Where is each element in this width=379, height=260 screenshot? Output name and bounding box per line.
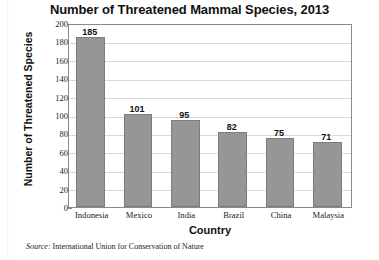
bar-indonesia[interactable] <box>76 37 104 207</box>
x-tick-label: Indonesia <box>68 210 115 220</box>
bar-value-label: 95 <box>170 110 198 120</box>
gridline <box>69 61 351 62</box>
bar-brazil[interactable] <box>218 132 246 207</box>
y-axis-tick-labels: 200180160140120100806040200 <box>38 24 68 208</box>
x-axis-title: Country <box>68 224 352 236</box>
gridline <box>69 98 351 99</box>
x-tick-label: Brazil <box>210 210 257 220</box>
bar-value-label: 75 <box>265 128 293 138</box>
y-tick-label: 160 <box>42 57 68 65</box>
y-tick-label: 180 <box>42 38 68 46</box>
gridline <box>69 43 351 44</box>
y-tick-label: 100 <box>42 112 68 120</box>
y-tick-label: 140 <box>42 75 68 83</box>
plot-area <box>68 24 352 208</box>
bar-india[interactable] <box>171 120 199 207</box>
y-tick-label: 0 <box>42 204 68 212</box>
x-tick-label: India <box>163 210 210 220</box>
bar-value-label: 71 <box>312 132 340 142</box>
y-tick-label: 20 <box>42 186 68 194</box>
source-text: International Union for Conservation of … <box>53 242 204 251</box>
bar-value-label: 101 <box>123 104 151 114</box>
x-axis-tick-labels: IndonesiaMexicoIndiaBrazilChinaMalaysia <box>68 210 352 224</box>
y-tick-label: 80 <box>42 130 68 138</box>
gridline <box>69 80 351 81</box>
y-tick-label: 60 <box>42 149 68 157</box>
y-tick-label: 120 <box>42 94 68 102</box>
x-tick-label: Mexico <box>115 210 162 220</box>
gridline <box>69 190 351 191</box>
bar-malaysia[interactable] <box>313 142 341 207</box>
gridline <box>69 153 351 154</box>
gridline <box>69 172 351 173</box>
chart-figure: Number of Threatened Mammal Species, 201… <box>0 0 379 260</box>
y-tick-mark <box>68 208 72 209</box>
source-label: Source: <box>26 242 51 251</box>
bar-mexico[interactable] <box>124 114 152 207</box>
y-tick-label: 200 <box>42 20 68 28</box>
source-note: Source: International Union for Conserva… <box>26 242 204 251</box>
gridline <box>69 135 351 136</box>
x-tick-label: China <box>257 210 304 220</box>
gridline <box>69 117 351 118</box>
bar-value-label: 82 <box>217 122 245 132</box>
x-tick-label: Malaysia <box>305 210 352 220</box>
scan-artifact <box>7 0 9 260</box>
chart-title: Number of Threatened Mammal Species, 201… <box>0 2 379 17</box>
y-tick-label: 40 <box>42 167 68 175</box>
bar-china[interactable] <box>266 138 294 207</box>
bar-value-label: 185 <box>75 27 103 37</box>
y-axis-title: Number of Threatened Species <box>22 29 34 189</box>
